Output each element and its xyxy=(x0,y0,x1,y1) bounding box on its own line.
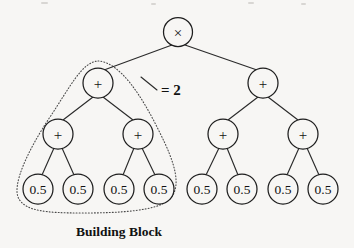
tree-node-terminal: 0.5 xyxy=(227,174,257,204)
plus-operator-icon: + xyxy=(54,127,62,143)
multiply-operator-icon: × xyxy=(174,25,182,41)
building-block-caption: Building Block xyxy=(76,224,162,239)
node-value-label: 0.5 xyxy=(315,182,332,197)
equals-two-leader-line xyxy=(141,77,157,90)
tree-node-terminal: 0.5 xyxy=(187,174,217,204)
tree-node-operator: + xyxy=(43,119,73,149)
tree-node-operator: + xyxy=(123,119,153,149)
tree-edge xyxy=(206,148,219,175)
tree-edge xyxy=(103,97,133,120)
tree-node-terminal: 0.5 xyxy=(268,174,298,204)
plus-operator-icon: + xyxy=(299,127,307,143)
tree-edge xyxy=(42,148,54,175)
node-value-label: 0.5 xyxy=(111,182,128,197)
node-value-label: 0.5 xyxy=(234,182,251,197)
tree-node-operator: + xyxy=(83,68,113,98)
tree-node-terminal: 0.5 xyxy=(23,174,53,204)
node-value-label: 0.5 xyxy=(275,182,292,197)
tree-nodes: ×++++++0.50.50.50.50.50.50.50.5 xyxy=(23,18,338,205)
tree-node-operator: + xyxy=(288,119,318,149)
tree-node-terminal: 0.5 xyxy=(144,174,174,204)
plus-operator-icon: + xyxy=(94,76,102,92)
expression-tree-diagram: = 2 ×++++++0.50.50.50.50.50.50.50.5 Buil… xyxy=(0,0,354,248)
figure-container: = 2 ×++++++0.50.50.50.50.50.50.50.5 Buil… xyxy=(0,0,354,248)
plus-operator-icon: + xyxy=(259,76,267,92)
tree-node-operator: × xyxy=(164,18,193,47)
tree-edge xyxy=(123,148,134,175)
tree-node-terminal: 0.5 xyxy=(308,174,338,204)
tree-edge xyxy=(62,148,74,175)
tree-edge xyxy=(142,148,155,175)
tree-edge xyxy=(268,97,298,120)
tree-node-operator: + xyxy=(248,68,278,98)
node-value-label: 0.5 xyxy=(151,182,168,197)
tree-edge xyxy=(227,148,238,175)
equals-two-annotation: = 2 xyxy=(161,82,181,98)
tree-edge xyxy=(228,97,258,120)
tree-edge xyxy=(63,97,93,120)
tree-node-terminal: 0.5 xyxy=(104,174,134,204)
tree-edges xyxy=(42,45,319,175)
scan-artifacts xyxy=(41,2,306,5)
tree-edge xyxy=(185,45,257,70)
tree-edge xyxy=(104,45,172,70)
node-value-label: 0.5 xyxy=(194,182,211,197)
plus-operator-icon: + xyxy=(219,127,227,143)
plus-operator-icon: + xyxy=(134,127,142,143)
node-value-label: 0.5 xyxy=(30,182,47,197)
tree-node-operator: + xyxy=(208,119,238,149)
node-value-label: 0.5 xyxy=(70,182,87,197)
tree-edge xyxy=(307,148,319,175)
tree-edge xyxy=(287,148,299,175)
tree-node-terminal: 0.5 xyxy=(63,174,93,204)
